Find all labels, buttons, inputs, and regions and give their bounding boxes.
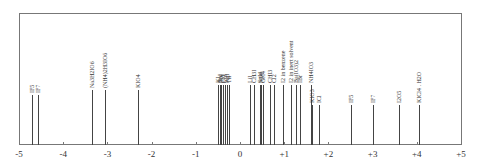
axis-tick: [461, 142, 462, 145]
spectral-line: [283, 85, 284, 145]
line-label: IF5: [348, 95, 354, 103]
line-label: KICl4 . H2O: [416, 72, 422, 103]
spectral-line: [270, 85, 271, 145]
axis-tick: [19, 142, 20, 145]
line-label: I2O5: [396, 91, 402, 103]
spectral-line: [250, 85, 251, 145]
spectral-line: [296, 85, 297, 145]
spectral-line: [32, 95, 33, 145]
axis-tick: [196, 142, 197, 145]
axis-tick: [240, 142, 241, 145]
spectral-line: [254, 85, 255, 145]
chart-frame: [19, 13, 462, 145]
tick-label: +4: [412, 149, 422, 159]
line-label: IF7: [35, 85, 41, 93]
axis-tick: [417, 142, 418, 145]
line-label: ICl: [316, 95, 322, 103]
spectral-line: [373, 105, 374, 145]
tick-label: +2: [324, 149, 334, 159]
tick-label: +5: [456, 149, 466, 159]
line-label: Cl2: [271, 74, 277, 83]
spectral-line: [319, 105, 320, 145]
tick-label: -5: [15, 149, 23, 159]
spectral-line: [105, 90, 106, 145]
spectral-line: [38, 95, 39, 145]
axis-tick: [284, 142, 285, 145]
tick-label: -1: [192, 149, 200, 159]
tick-label: -2: [148, 149, 156, 159]
axis-tick: [152, 142, 153, 145]
line-label: (NH4)2H3IO6: [102, 53, 108, 88]
spectral-line: [351, 105, 352, 145]
axis-tick: [63, 142, 64, 145]
line-label: GeI4: [260, 71, 266, 83]
spectral-line: [300, 85, 301, 145]
spectral-line: [263, 85, 264, 145]
line-label: IF7: [370, 95, 376, 103]
spectral-line: [312, 105, 313, 145]
line-label: IBr: [297, 75, 303, 83]
line-label: TlI: [226, 76, 232, 83]
spectral-line: [291, 85, 292, 145]
tick-label: 0: [238, 149, 243, 159]
line-label: NH4IO3: [308, 62, 314, 83]
spectral-line: [274, 85, 275, 145]
line-label: Na3H2IO6: [89, 61, 95, 88]
axis-tick: [328, 142, 329, 145]
tick-label: -4: [59, 149, 67, 159]
spectral-line: [229, 85, 230, 145]
line-label: I2 in benzene: [280, 51, 286, 83]
spectral-line: [399, 105, 400, 145]
tick-label: +3: [368, 149, 378, 159]
spectral-line: [419, 105, 420, 145]
line-label: KIO4: [135, 74, 141, 88]
spectral-line: [92, 90, 93, 145]
tick-label: +1: [279, 149, 289, 159]
spectral-line: [138, 90, 139, 145]
line-label: KIO3: [309, 89, 315, 103]
tick-label: -3: [104, 149, 112, 159]
axis-tick: [107, 142, 108, 145]
